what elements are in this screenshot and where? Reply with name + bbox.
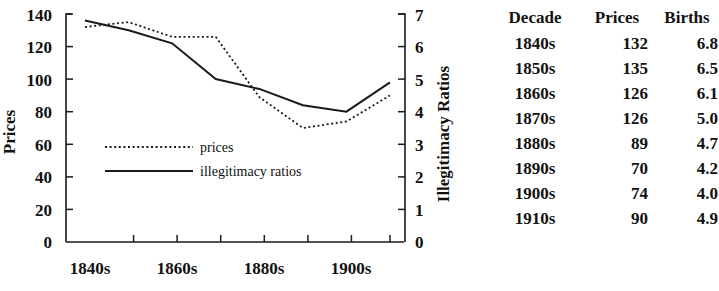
table-row: 1890s 70 4.2 [492,156,718,181]
cell-prices: 89 [578,131,656,156]
x-axis-ticks [134,235,390,242]
cell-prices: 126 [578,106,656,131]
table-row: 1910s 90 4.9 [492,206,718,231]
cell-decade: 1870s [492,106,578,131]
cell-decade: 1910s [492,206,578,231]
column-header-decade: Decade [492,8,578,31]
cell-decade: 1840s [492,31,578,56]
table-row: 1860s 126 6.1 [492,81,718,106]
data-table: Decade Prices Births 1840s 132 6.8 1850s… [492,8,718,231]
right-axis-ticks [398,14,405,209]
column-header-prices: Prices [578,8,656,31]
table-header-row: Decade Prices Births [492,8,718,31]
dual-axis-line-chart: Prices Illegitimacy Ratios 140 120 100 8… [0,0,470,291]
chart-and-table-figure: Prices Illegitimacy Ratios 140 120 100 8… [0,0,719,291]
cell-prices: 90 [578,206,656,231]
cell-decade: 1900s [492,181,578,206]
cell-decade: 1860s [492,81,578,106]
series-line-illegitimacy-ratios [85,21,390,112]
cell-births: 6.1 [656,81,718,106]
cell-prices: 74 [578,181,656,206]
table-row: 1900s 74 4.0 [492,181,718,206]
cell-births: 4.9 [656,206,718,231]
table-row: 1870s 126 5.0 [492,106,718,131]
table-row: 1850s 135 6.5 [492,56,718,81]
cell-births: 6.8 [656,31,718,56]
cell-prices: 135 [578,56,656,81]
cell-births: 4.0 [656,181,718,206]
table-row: 1840s 132 6.8 [492,31,718,56]
cell-prices: 132 [578,31,656,56]
table-row: 1880s 89 4.7 [492,131,718,156]
cell-prices: 70 [578,156,656,181]
cell-decade: 1890s [492,156,578,181]
cell-decade: 1880s [492,131,578,156]
cell-births: 6.5 [656,56,718,81]
left-axis-spine [66,14,404,242]
cell-births: 5.0 [656,106,718,131]
cell-births: 4.2 [656,156,718,181]
left-axis-ticks [66,14,73,209]
column-header-births: Births [656,8,718,31]
plot-canvas [0,0,470,291]
cell-decade: 1850s [492,56,578,81]
right-axis-spine [398,14,405,242]
cell-prices: 126 [578,81,656,106]
cell-births: 4.7 [656,131,718,156]
